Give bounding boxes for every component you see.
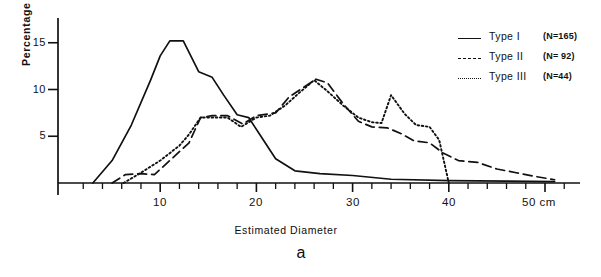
x-tick-label-50: 50 cm	[522, 196, 578, 208]
legend-swatch-dashed-icon	[458, 58, 481, 59]
legend-item-type-iii: Type III (N=44)	[458, 70, 598, 86]
y-tick-label-10: 10	[18, 83, 46, 95]
legend-label-type-ii: Type II	[489, 50, 523, 62]
x-tick-label-40: 40	[429, 196, 469, 208]
series-line-type-ii	[112, 79, 555, 183]
y-tick-label-5: 5	[18, 129, 46, 141]
legend-label-type-i: Type I	[489, 30, 520, 42]
chart-legend: Type I (N=165) Type II (N= 92) Type III …	[458, 30, 598, 90]
legend-count-type-iii: (N=44)	[543, 71, 572, 81]
legend-count-type-ii: (N= 92)	[543, 51, 575, 61]
x-axis-label: Estimated Diameter	[196, 224, 376, 236]
legend-item-type-i: Type I (N=165)	[458, 30, 598, 46]
legend-swatch-solid-icon	[458, 38, 481, 39]
x-tick-label-10: 10	[140, 196, 180, 208]
y-tick-label-15: 15	[18, 36, 46, 48]
legend-swatch-dotted-icon	[458, 78, 481, 79]
figure-panel-a: Percentage 15 10 5 10 20 30 40 50 cm Est…	[0, 0, 601, 277]
legend-count-type-i: (N=165)	[543, 31, 577, 41]
x-tick-label-30: 30	[333, 196, 373, 208]
y-axis-label-text: Percentage	[20, 2, 32, 66]
x-tick-label-20: 20	[236, 196, 276, 208]
legend-item-type-ii: Type II (N= 92)	[458, 50, 598, 66]
legend-label-type-iii: Type III	[489, 70, 527, 82]
panel-caption: a	[271, 244, 331, 262]
series-line-type-iii	[124, 80, 449, 183]
